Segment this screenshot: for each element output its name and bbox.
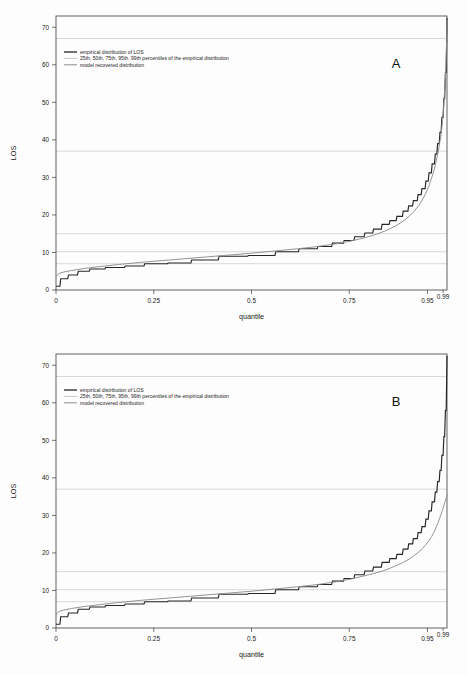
x-tick-label: 0.25 — [148, 297, 161, 304]
y-tick-label: 0 — [45, 624, 49, 631]
y-tick-label: 10 — [42, 249, 50, 256]
x-tick-label: 0.75 — [343, 635, 356, 642]
y-tick-label: 50 — [42, 437, 50, 444]
y-axis-title: LOS — [9, 484, 18, 499]
y-tick-label: 30 — [42, 174, 50, 181]
y-tick-label: 60 — [42, 61, 50, 68]
legend-label: model recovered distribution — [80, 400, 144, 406]
x-tick-label: 0.75 — [343, 297, 356, 304]
legend-label: 25th, 50th, 75th, 95th, 99th percentiles… — [80, 55, 229, 61]
y-axis-title: LOS — [9, 146, 18, 161]
y-tick-label: 30 — [42, 512, 50, 519]
y-tick-label: 40 — [42, 136, 50, 143]
x-tick-label: 0.95 — [421, 297, 434, 304]
figure-page: 01020304050607000.250.50.750.950.99quant… — [0, 0, 467, 675]
x-tick-label: 0.99 — [437, 293, 450, 300]
y-tick-label: 20 — [42, 549, 50, 556]
legend-label: 25th, 50th, 75th, 95th, 99th percentiles… — [80, 393, 229, 399]
x-tick-label: 0.95 — [421, 635, 434, 642]
x-tick-label: 0.5 — [247, 635, 256, 642]
y-tick-label: 70 — [42, 24, 50, 31]
x-axis-title: quantile — [239, 312, 264, 321]
x-tick-label: 0 — [54, 297, 58, 304]
y-tick-label: 10 — [42, 587, 50, 594]
x-axis-title: quantile — [239, 650, 264, 659]
x-tick-label: 0 — [54, 635, 58, 642]
chart-panel-a: 01020304050607000.250.50.750.950.99quant… — [0, 2, 467, 332]
x-tick-label: 0.99 — [437, 631, 450, 638]
y-tick-label: 50 — [42, 99, 50, 106]
x-tick-label: 0.25 — [148, 635, 161, 642]
legend-label: empirical distribution of LOS — [80, 387, 144, 393]
chart-panel-b: 01020304050607000.250.50.750.950.99quant… — [0, 340, 467, 670]
y-tick-label: 60 — [42, 399, 50, 406]
panel-letter: B — [392, 394, 401, 409]
model-recovered-curve — [56, 495, 447, 615]
y-tick-label: 70 — [42, 362, 50, 369]
x-tick-label: 0.5 — [247, 297, 256, 304]
legend-label: empirical distribution of LOS — [80, 49, 144, 55]
y-tick-label: 40 — [42, 474, 50, 481]
y-tick-label: 0 — [45, 286, 49, 293]
panel-letter: A — [392, 56, 401, 71]
y-tick-label: 20 — [42, 211, 50, 218]
legend-label: model recovered distribution — [80, 62, 144, 68]
